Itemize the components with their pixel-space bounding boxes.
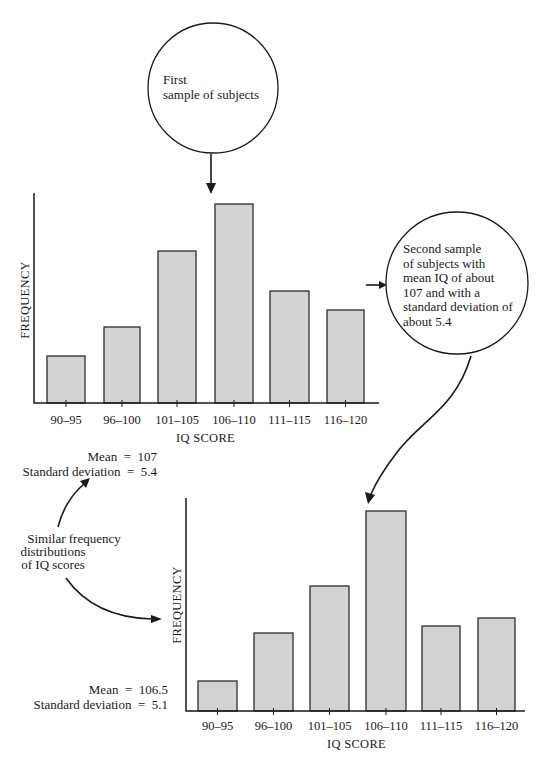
tick-label: 96–100 [103,413,141,427]
first-sample-bubble: First sample of subjects [148,23,278,153]
tick-label: 111–115 [420,719,462,733]
bar-116–120 [478,618,515,711]
tick-label: 90–95 [50,413,81,427]
bottom-x-axis-title: IQ SCORE [327,737,386,751]
bottom-tick-labels: 90–9596–100101–105106–110111–115116–120 [202,719,518,733]
iq-frequency-figure: First sample of subjects 90–9596–100101–… [0,0,547,767]
top-x-axis-title: IQ SCORE [176,431,235,445]
bar-90–95 [198,681,237,711]
first-sample-line-1: First [163,72,187,87]
bottom-bars [198,511,515,711]
first-sample-line-2: sample of subjects [163,87,259,102]
bar-106–110 [366,511,406,711]
top-sd-text: Standard deviation = 5.4 [23,464,158,479]
arrow-down-icon [206,154,216,194]
tick-label: 116–120 [475,719,518,733]
top-tick-labels: 90–9596–100101–105106–110111–115116–120 [50,413,367,427]
bar-101–105 [158,251,196,403]
second-sample-line-5: standard deviation of [403,299,513,314]
tick-label: 106–110 [212,413,255,427]
tick-label: 101–105 [308,719,352,733]
bottom-y-axis-title: FREQUENCY [170,566,184,644]
tick-label: 106–110 [364,719,407,733]
bar-90–95 [47,356,85,403]
tick-label: 90–95 [202,719,233,733]
bar-101–105 [310,586,349,711]
second-sample-line-1: Second sample [403,241,482,256]
curved-arrow-up-icon [58,478,90,527]
tick-label: 116–120 [324,413,367,427]
second-sample-bubble: Second sample of subjects with mean IQ o… [386,212,528,354]
bar-96–100 [104,327,140,403]
bottom-axes [186,498,525,711]
bottom-stats: Mean = 106.5 Standard deviation = 5.1 [34,682,168,712]
similar-line-3: of IQ scores [21,557,85,572]
arrow-right-icon [366,281,387,289]
top-mean-text: Mean = 107 [88,449,158,464]
tick-label: 101–105 [155,413,199,427]
curved-arrow-icon [365,356,471,504]
bottom-mean-text: Mean = 106.5 [89,682,168,697]
bar-111–115 [270,291,309,403]
bottom-histogram: 90–9596–100101–105106–110111–115116–120 … [170,498,525,751]
bar-96–100 [254,633,293,711]
bar-116–120 [327,310,364,403]
second-sample-line-4: 107 and with a [403,285,480,300]
top-stats: Mean = 107 Standard deviation = 5.4 [23,449,158,479]
top-bars [47,204,364,403]
bar-106–110 [215,204,253,403]
tick-label: 96–100 [255,719,293,733]
top-y-axis-title: FREQUENCY [18,261,32,339]
bar-111–115 [422,626,460,711]
top-histogram: 90–9596–100101–105106–110111–115116–120 … [18,193,379,445]
curved-arrow-down-right-icon [66,578,162,623]
second-sample-line-3: mean IQ of about [403,270,495,285]
similar-distributions-note: Similar frequency distributions of IQ sc… [20,531,121,572]
tick-label: 111–115 [268,413,310,427]
bottom-sd-text: Standard deviation = 5.1 [34,697,168,712]
second-sample-line-6: about 5.4 [403,314,452,329]
second-sample-line-2: of subjects with [403,256,486,271]
